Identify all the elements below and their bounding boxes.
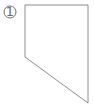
marker-circled-one: 1 — [4, 4, 16, 19]
shape-diagram-svg: 1 — [0, 0, 94, 105]
figure-panel: 1 — [0, 0, 94, 105]
quadrilateral-outline — [25, 5, 88, 103]
marker-number-label: 1 — [6, 4, 14, 19]
